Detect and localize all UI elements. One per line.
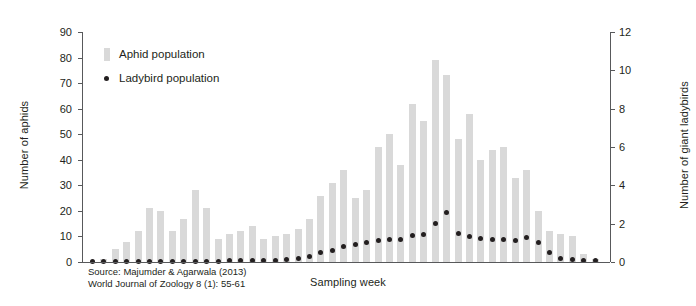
y-axis-left-line bbox=[82, 32, 83, 262]
y-axis-left-tick-label: 50 bbox=[46, 129, 72, 140]
y-axis-left-tick-label: 90 bbox=[46, 27, 72, 38]
bar-aphid-population bbox=[535, 211, 542, 262]
point-ladybird-population bbox=[478, 236, 483, 241]
y-axis-right-tick-label: 0 bbox=[619, 257, 645, 268]
bar-aphid-population bbox=[375, 147, 382, 262]
bar-aphid-population bbox=[157, 211, 164, 262]
point-ladybird-population bbox=[421, 232, 426, 237]
chart-figure: Number of aphids Number of giant ladybir… bbox=[0, 0, 696, 306]
bar-aphid-population bbox=[512, 178, 519, 262]
bar-aphid-population bbox=[135, 231, 142, 262]
y-axis-left-tick-label: 20 bbox=[46, 206, 72, 217]
y-axis-left-tick-label: 10 bbox=[46, 231, 72, 242]
point-ladybird-population bbox=[490, 237, 495, 242]
y-axis-right-title: Number of giant ladybirds bbox=[678, 30, 690, 260]
y-axis-left-tick-label: 60 bbox=[46, 104, 72, 115]
bar-aphid-population bbox=[500, 147, 507, 262]
y-axis-left-tick bbox=[78, 262, 82, 263]
y-axis-left-tick bbox=[78, 83, 82, 84]
point-ladybird-population bbox=[296, 256, 301, 261]
point-ladybird-population bbox=[284, 257, 289, 262]
bar-aphid-population bbox=[249, 226, 256, 262]
bar-aphid-population bbox=[352, 198, 359, 262]
bar-aphid-population bbox=[363, 190, 370, 262]
y-axis-right-tick bbox=[611, 224, 615, 225]
bar-aphid-population bbox=[477, 160, 484, 262]
source-line-1: Source: Majumder & Agarwala (2013) bbox=[88, 266, 246, 278]
bar-aphid-population bbox=[420, 121, 427, 262]
y-axis-right-tick-label: 2 bbox=[619, 219, 645, 230]
point-ladybird-population bbox=[536, 240, 541, 245]
y-axis-left-tick bbox=[78, 160, 82, 161]
point-ladybird-population bbox=[524, 235, 529, 240]
y-axis-left-tick-label: 40 bbox=[46, 155, 72, 166]
point-ladybird-population bbox=[467, 234, 472, 239]
y-axis-left-tick bbox=[78, 134, 82, 135]
source-line-2: World Journal of Zoology 8 (1): 55-61 bbox=[88, 278, 246, 290]
y-axis-left-title: Number of aphids bbox=[18, 30, 30, 260]
y-axis-left-tick-label: 80 bbox=[46, 53, 72, 64]
bar-aphid-population bbox=[546, 231, 553, 262]
y-axis-left-tick bbox=[78, 211, 82, 212]
bar-aphid-population bbox=[455, 139, 462, 262]
point-ladybird-population bbox=[398, 237, 403, 242]
bar-aphid-population bbox=[489, 150, 496, 262]
bar-aphid-population bbox=[432, 60, 439, 262]
y-axis-left-tick bbox=[78, 32, 82, 33]
bar-aphid-population bbox=[169, 231, 176, 262]
y-axis-left-tick bbox=[78, 185, 82, 186]
point-ladybird-population bbox=[376, 238, 381, 243]
y-axis-right-tick bbox=[611, 262, 615, 263]
y-axis-left-tick bbox=[78, 58, 82, 59]
bar-aphid-population bbox=[203, 208, 210, 262]
bar-aphid-population bbox=[523, 170, 530, 262]
y-axis-left-tick-label: 30 bbox=[46, 180, 72, 191]
point-ladybird-population bbox=[410, 233, 415, 238]
y-axis-left-tick bbox=[78, 109, 82, 110]
y-axis-right-tick-label: 8 bbox=[619, 104, 645, 115]
y-axis-right-tick bbox=[611, 32, 615, 33]
point-ladybird-population bbox=[444, 210, 449, 215]
x-axis-line bbox=[82, 262, 610, 263]
y-axis-right-tick-label: 6 bbox=[619, 142, 645, 153]
y-axis-left-tick-label: 70 bbox=[46, 78, 72, 89]
y-axis-right-tick bbox=[611, 185, 615, 186]
y-axis-right-tick-label: 4 bbox=[619, 180, 645, 191]
y-axis-right-tick bbox=[611, 70, 615, 71]
bar-aphid-population bbox=[386, 134, 393, 262]
y-axis-left-tick bbox=[78, 236, 82, 237]
source-citation: Source: Majumder & Agarwala (2013) World… bbox=[88, 266, 246, 290]
point-ladybird-population bbox=[570, 257, 575, 262]
point-ladybird-population bbox=[330, 248, 335, 253]
plot-area bbox=[82, 32, 610, 262]
point-ladybird-population bbox=[433, 221, 438, 226]
bar-aphid-population bbox=[466, 114, 473, 262]
point-ladybird-population bbox=[456, 231, 461, 236]
bar-aphid-population bbox=[409, 104, 416, 262]
y-axis-right-tick-label: 12 bbox=[619, 27, 645, 38]
bar-aphid-population bbox=[180, 219, 187, 262]
y-axis-right-tick bbox=[611, 109, 615, 110]
y-axis-right-tick-label: 10 bbox=[619, 65, 645, 76]
y-axis-right-tick bbox=[611, 147, 615, 148]
point-ladybird-population bbox=[353, 242, 358, 247]
point-ladybird-population bbox=[547, 250, 552, 255]
y-axis-left-tick-label: 0 bbox=[46, 257, 72, 268]
bar-aphid-population bbox=[146, 208, 153, 262]
bar-aphid-population bbox=[443, 75, 450, 262]
bar-aphid-population bbox=[192, 190, 199, 262]
bar-aphid-population bbox=[397, 165, 404, 262]
point-ladybird-population bbox=[307, 254, 312, 259]
